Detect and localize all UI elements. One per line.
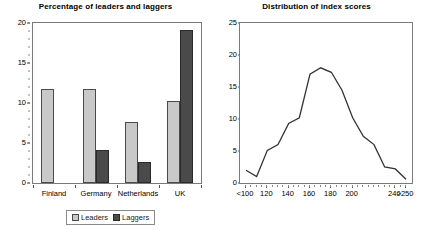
- x-axis-minor-tick: [309, 185, 310, 187]
- y-axis-minor-tick: [28, 135, 30, 136]
- y-axis-minor-tick: [28, 159, 30, 160]
- y-axis-minor-tick: [28, 127, 30, 128]
- x-axis-tick-mark: [201, 185, 202, 188]
- x-axis-label-250: >250: [397, 189, 414, 198]
- bar-chart-plot-area: [32, 22, 202, 184]
- y-axis-tick-label: 10: [18, 99, 26, 107]
- x-axis-minor-tick: [298, 185, 299, 187]
- legend-label-laggers: Laggers: [122, 213, 149, 222]
- x-axis-minor-tick: [256, 185, 257, 187]
- bar-netherlands-laggers: [138, 162, 151, 183]
- bar-uk-laggers: [180, 30, 193, 183]
- x-axis-minor-tick: [389, 185, 390, 187]
- y-axis-minor-tick: [28, 167, 30, 168]
- x-axis-minor-tick: [394, 185, 395, 187]
- x-axis-tick-mark: [117, 185, 118, 188]
- x-axis-tick-mark: [75, 185, 76, 188]
- x-axis-minor-tick: [336, 185, 337, 187]
- y-axis-tick-label: 20: [18, 19, 26, 27]
- x-axis-minor-tick: [250, 185, 251, 187]
- bar-series-container: [33, 23, 201, 183]
- leaders-swatch-icon: [72, 214, 79, 221]
- legend-item-laggers: Laggers: [113, 213, 149, 222]
- x-axis-minor-tick: [384, 185, 385, 187]
- x-axis-minor-tick: [362, 185, 363, 187]
- y-axis-minor-tick: [28, 151, 30, 152]
- y-axis-minor-tick: [28, 39, 30, 40]
- bar-netherlands-leaders: [125, 122, 138, 183]
- y-axis-tick-label: 20: [229, 51, 237, 59]
- y-axis-tick-label: 10: [229, 115, 237, 123]
- x-axis-minor-tick: [266, 185, 267, 187]
- x-axis-label-netherlands: Netherlands: [118, 189, 158, 198]
- y-axis-minor-tick: [28, 87, 30, 88]
- x-axis-minor-tick: [272, 185, 273, 187]
- x-axis-minor-tick: [325, 185, 326, 187]
- bar-finland-leaders: [41, 89, 54, 183]
- y-axis-tick-label: 5: [22, 139, 26, 147]
- x-axis-label-100: <100: [237, 189, 254, 198]
- x-axis-minor-tick: [288, 185, 289, 187]
- x-axis-label-140: 140: [281, 189, 294, 198]
- x-axis-minor-tick: [330, 185, 331, 187]
- y-axis-tick-mark: [27, 23, 30, 24]
- y-axis-tick-mark: [27, 63, 30, 64]
- y-axis-tick-label: 0: [22, 179, 26, 187]
- laggers-swatch-icon: [113, 214, 120, 221]
- x-axis-minor-tick: [346, 185, 347, 187]
- line-series-svg: [240, 23, 412, 183]
- x-axis-minor-tick: [357, 185, 358, 187]
- charts-page: Percentage of leaders and laggers 051015…: [0, 0, 422, 238]
- y-axis-minor-tick: [28, 71, 30, 72]
- x-axis-tick-mark: [159, 185, 160, 188]
- line-chart-y-axis: 0510152025: [211, 22, 241, 184]
- bar-germany-laggers: [96, 150, 109, 183]
- x-axis-label-finland: Finland: [42, 189, 67, 198]
- y-axis-tick-label: 15: [18, 59, 26, 67]
- y-axis-tick-label: 25: [229, 19, 237, 27]
- x-axis-label-180: 180: [324, 189, 337, 198]
- y-axis-tick-label: 5: [233, 147, 237, 155]
- x-axis-label-uk: UK: [175, 189, 185, 198]
- x-axis-minor-tick: [373, 185, 374, 187]
- bar-chart-legend: Leaders Laggers: [66, 210, 155, 225]
- index-score-line: [246, 68, 406, 179]
- bar-germany-leaders: [83, 89, 96, 183]
- line-chart-panel: Distribution of index scores 0510152025 …: [211, 0, 422, 238]
- y-axis-minor-tick: [28, 119, 30, 120]
- bar-chart-panel: Percentage of leaders and laggers 051015…: [0, 0, 211, 238]
- x-axis-label-160: 160: [303, 189, 316, 198]
- x-axis-minor-tick: [277, 185, 278, 187]
- y-axis-minor-tick: [28, 47, 30, 48]
- line-chart-x-axis: <100120140160180200240>250: [239, 185, 413, 199]
- x-axis-minor-tick: [261, 185, 262, 187]
- x-axis-minor-tick: [282, 185, 283, 187]
- y-axis-minor-tick: [28, 31, 30, 32]
- legend-label-leaders: Leaders: [81, 213, 108, 222]
- x-axis-minor-tick: [320, 185, 321, 187]
- y-axis-minor-tick: [28, 95, 30, 96]
- x-axis-minor-tick: [400, 185, 401, 187]
- x-axis-minor-tick: [352, 185, 353, 187]
- x-axis-label-germany: Germany: [81, 189, 112, 198]
- y-axis-tick-mark: [27, 143, 30, 144]
- x-axis-minor-tick: [378, 185, 379, 187]
- legend-item-leaders: Leaders: [72, 213, 108, 222]
- y-axis-minor-tick: [28, 79, 30, 80]
- x-axis-label-200: 200: [345, 189, 358, 198]
- y-axis-minor-tick: [28, 175, 30, 176]
- x-axis-tick-mark: [33, 185, 34, 188]
- x-axis-minor-tick: [405, 185, 406, 187]
- x-axis-label-120: 120: [260, 189, 273, 198]
- bar-chart-x-axis: FinlandGermanyNetherlandsUK: [32, 185, 202, 199]
- x-axis-minor-tick: [293, 185, 294, 187]
- x-axis-minor-tick: [245, 185, 246, 187]
- bar-chart-y-axis: 05101520: [0, 22, 30, 184]
- bar-uk-leaders: [167, 101, 180, 183]
- x-axis-minor-tick: [304, 185, 305, 187]
- x-axis-minor-tick: [368, 185, 369, 187]
- y-axis-tick-label: 0: [233, 179, 237, 187]
- x-axis-minor-tick: [341, 185, 342, 187]
- line-chart-title: Distribution of index scores: [211, 2, 422, 12]
- bar-chart-title: Percentage of leaders and laggers: [0, 2, 211, 12]
